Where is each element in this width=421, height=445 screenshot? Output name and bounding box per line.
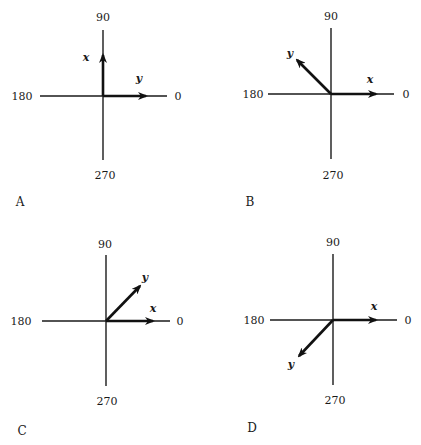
vector-y-arrow-icon (297, 60, 331, 94)
vector-y-label: y (287, 358, 296, 371)
vector-y-label: y (286, 47, 295, 60)
vector-y-label: y (141, 271, 150, 284)
vector-x-label: x (149, 302, 157, 315)
panel-a: 901800270xyA (12, 11, 182, 209)
angle-label-top: 90 (326, 236, 340, 249)
panel-label: D (247, 421, 257, 435)
angle-label-top: 90 (324, 10, 338, 23)
panel-c: 901800270yxC (11, 238, 184, 438)
angle-label-left: 180 (244, 314, 265, 327)
panel-label: B (246, 195, 255, 209)
panel-label: A (15, 195, 25, 209)
angle-label-right: 0 (175, 90, 182, 103)
angle-label-left: 180 (12, 90, 33, 103)
vector-x-label: x (366, 73, 374, 86)
coordinate-diagrams: 901800270xyA901800270yxB901800270yxC9018… (0, 0, 421, 445)
panel-label: C (17, 424, 26, 438)
vector-y-label: y (135, 72, 144, 85)
angle-label-right: 0 (405, 314, 412, 327)
panel-d: 901800270xyD (244, 236, 412, 435)
angle-label-left: 180 (243, 88, 264, 101)
angle-label-right: 0 (177, 315, 184, 328)
angle-label-bottom: 270 (323, 169, 344, 182)
vector-x-label: x (82, 51, 90, 64)
angle-label-right: 0 (403, 88, 410, 101)
vector-y-arrow-icon (299, 320, 333, 356)
angle-label-left: 180 (11, 315, 32, 328)
vector-x-label: x (370, 300, 378, 313)
angle-label-top: 90 (96, 11, 110, 24)
angle-label-bottom: 270 (95, 169, 116, 182)
angle-label-bottom: 270 (97, 395, 118, 408)
angle-label-top: 90 (98, 238, 112, 251)
vector-y-arrow-icon (106, 286, 140, 321)
angle-label-bottom: 270 (325, 394, 346, 407)
panel-b: 901800270yxB (243, 10, 410, 209)
